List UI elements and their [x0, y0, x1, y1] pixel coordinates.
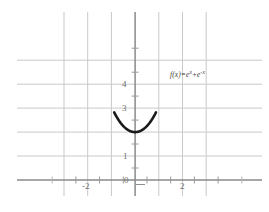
x-tick-label-neg2: -2 — [82, 182, 90, 191]
x-tick-label-2: 2 — [180, 182, 185, 191]
equation-exponent-second: -x — [201, 69, 205, 75]
function-graph-figure: 4 3 1 0 -2 2 f(x)=ex+e-x — [0, 0, 269, 212]
horizontal-gridlines — [17, 60, 262, 156]
function-equation-label: f(x)=ex+e-x — [170, 71, 205, 79]
y-tick-label-4: 4 — [122, 80, 127, 89]
y-tick-label-3: 3 — [122, 104, 127, 113]
y-tick-label-0: 0 — [124, 176, 129, 185]
plot-area — [0, 0, 269, 212]
axis-lines — [17, 12, 262, 196]
y-tick-label-1: 1 — [123, 152, 128, 161]
equation-paren-close: )= — [178, 70, 186, 79]
